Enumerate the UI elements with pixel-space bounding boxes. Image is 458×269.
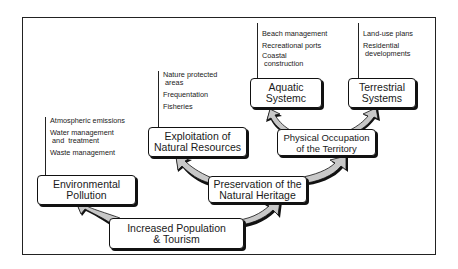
node-label: Systems	[362, 93, 402, 104]
list-item: Waste management	[50, 149, 145, 157]
node-physical-occupation: Physical Occupation of the Territory	[277, 129, 376, 156]
node-preservation: Preservation of the Natural Heritage	[208, 176, 307, 203]
list-item: Land-use plans	[363, 30, 438, 38]
node-exploitation: Exploitation of Natural Resources	[148, 127, 247, 157]
node-terrestrial-systems: Terrestrial Systems	[348, 78, 416, 108]
list-item: Recreational ports	[262, 42, 347, 50]
node-label: Pollution	[66, 190, 106, 201]
node-label: of the Territory	[296, 143, 357, 154]
node-label: Physical Occupation	[283, 132, 369, 143]
node-label: Increased Population	[127, 223, 226, 234]
exploitation-factors-list: Nature protected areas Frequentation Fis…	[158, 71, 238, 127]
list-item: Fisheries	[163, 103, 238, 111]
node-label: Systemc	[266, 93, 306, 104]
node-label: Natural Heritage	[219, 190, 295, 201]
list-item: Nature protected areas	[163, 71, 238, 87]
terrestrial-factors-list: Land-use plans Residential developments	[358, 23, 438, 78]
list-item: Beach management	[262, 30, 347, 38]
node-increased-population: Increased Population & Tourism	[109, 218, 244, 249]
list-item: Coastal construction	[262, 52, 347, 68]
node-label: Preservation of the	[213, 179, 301, 190]
list-item: Atmospheric emissions	[50, 117, 145, 125]
list-item: Frequentation	[163, 91, 238, 99]
arrow-preservation-to-exploitation	[176, 157, 212, 186]
list-item: Water management and treatment	[50, 129, 145, 145]
node-label: & Tourism	[153, 234, 200, 245]
node-label: Natural Resources	[154, 142, 241, 153]
pollution-factors-list: Atmospheric emissions Water management a…	[45, 117, 145, 175]
node-environmental-pollution: Environmental Pollution	[37, 175, 136, 205]
aquatic-factors-list: Beach management Recreational ports Coas…	[257, 23, 347, 78]
node-aquatic-systems: Aquatic Systemc	[250, 78, 322, 108]
list-item: Residential developments	[363, 42, 438, 58]
